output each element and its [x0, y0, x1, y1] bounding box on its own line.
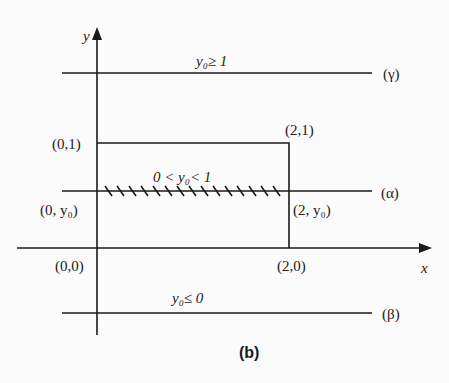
rectangle-region	[97, 143, 289, 248]
figure-caption: (b)	[239, 344, 259, 361]
y-axis-label: y	[81, 28, 90, 44]
alpha-condition: 0 < y₀< 1	[153, 169, 211, 185]
beta-condition: y₀≤ 0	[170, 290, 204, 306]
point-0-1: (0,1)	[52, 136, 81, 153]
point-2-y0: (2, y₀)	[293, 202, 331, 219]
point-0-y0: (0, y₀)	[40, 202, 78, 219]
diagram-canvas: y y₀≥ 1 (γ) (0,1) (2,1) 0 < y₀< 1 (α) (0…	[0, 0, 449, 383]
diagram-svg: y y₀≥ 1 (γ) (0,1) (2,1) 0 < y₀< 1 (α) (0…	[0, 0, 449, 383]
point-0-0: (0,0)	[55, 258, 84, 275]
gamma-label: (γ)	[383, 66, 400, 83]
x-axis-arrow-icon	[419, 243, 432, 253]
alpha-label: (α)	[381, 185, 399, 202]
beta-label: (β)	[382, 306, 400, 323]
point-2-1: (2,1)	[285, 122, 314, 139]
x-axis	[17, 243, 432, 253]
gamma-condition: y₀≥ 1	[194, 53, 227, 69]
point-2-0: (2,0)	[277, 258, 306, 275]
y-axis-arrow-icon	[92, 27, 102, 40]
x-axis-label: x	[420, 260, 428, 276]
